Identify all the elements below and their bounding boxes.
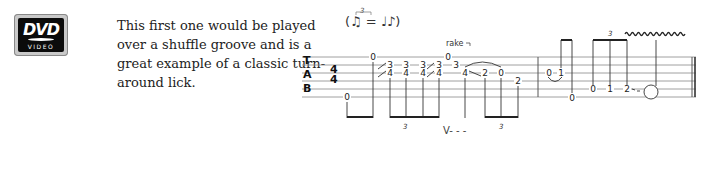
swing-triplet-number: 3 [360, 7, 364, 15]
rake-bracket [466, 43, 470, 46]
fret-number: 0 [546, 68, 552, 78]
tab-clef-t: T [303, 54, 311, 67]
fret-number: 0 [445, 52, 451, 62]
fret-number: 0 [590, 84, 596, 94]
tie-arc [465, 62, 501, 67]
fret-number: 1 [607, 84, 613, 94]
beams [347, 39, 627, 118]
fret-number: 2 [515, 76, 521, 86]
fret-number: 4 [403, 68, 409, 78]
time-signature-bottom: 4 [330, 73, 338, 86]
fret-number: 0 [569, 93, 575, 103]
guitar-tablature: (♫ = ♩♪) 3 T A B 4 4 0 0 3 4 3 4 3 4 3 4 [0, 0, 706, 172]
triplet-number: 3 [499, 123, 503, 131]
rake-label: rake [446, 39, 464, 48]
note-stems [347, 40, 656, 118]
triplet-number: 3 [403, 123, 407, 131]
fret-number: 0 [498, 68, 504, 78]
upstroke-pick-marking: V- - - [443, 125, 467, 136]
tab-clef-b: B [303, 82, 311, 95]
harmonic-note-circle [644, 85, 658, 99]
fret-number: 4 [462, 68, 468, 78]
fret-number: 4 [387, 68, 393, 78]
fret-number: 0 [370, 52, 376, 62]
triplet-number: 3 [608, 30, 612, 38]
fret-number: 3 [453, 60, 459, 70]
fret-number: 0 [344, 92, 350, 102]
fret-number: 4 [420, 68, 426, 78]
fret-number: 4 [436, 68, 442, 78]
fret-number: 2 [624, 84, 630, 94]
fret-number: 1 [558, 68, 564, 78]
swing-marking: (♫ = ♩♪) [345, 14, 400, 29]
vibrato-icon [625, 33, 685, 36]
tab-clef-a: A [303, 68, 312, 81]
fret-number: 2 [482, 68, 488, 78]
